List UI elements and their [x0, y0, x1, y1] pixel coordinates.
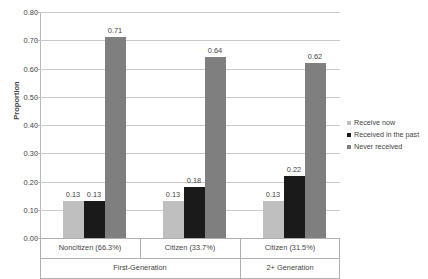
bar-value-label: 0.13 — [66, 190, 80, 199]
y-axis-tick — [36, 69, 40, 70]
category-divider — [240, 238, 241, 258]
category-table-side-border — [339, 238, 340, 279]
y-axis-tick-label: 0.40 — [6, 121, 38, 130]
bar-value-label: 0.22 — [287, 165, 301, 174]
bar-value-label: 0.13 — [266, 190, 280, 199]
legend-label: Receive now — [354, 117, 395, 128]
y-axis-tick-label: 0.30 — [6, 149, 38, 158]
y-axis-tick — [36, 210, 40, 211]
category-row: Noncitizen (66.3%)Citizen (33.7%)Citizen… — [40, 238, 340, 258]
legend-item[interactable]: Receive now — [347, 117, 428, 128]
bar-chart: Proportion 0.000.100.200.300.400.500.600… — [0, 0, 428, 279]
category-label-table: Noncitizen (66.3%)Citizen (33.7%)Citizen… — [40, 238, 340, 279]
plot-area: 0.130.130.710.130.180.640.130.220.62 — [40, 12, 340, 238]
legend-swatch-icon — [347, 145, 351, 149]
y-axis-tick — [36, 97, 40, 98]
bar-value-label: 0.64 — [208, 46, 222, 55]
bar — [205, 57, 226, 238]
bar — [84, 201, 105, 238]
legend-item[interactable]: Received in the past — [347, 129, 428, 140]
bar — [184, 187, 205, 238]
y-axis-tick-label: 0.10 — [6, 205, 38, 214]
category-table-side-border — [40, 238, 41, 279]
y-axis-tick — [36, 182, 40, 183]
group-header-label: First-Generation — [40, 258, 240, 278]
y-axis-tick-label: 0.60 — [6, 64, 38, 73]
bar-value-label: 0.62 — [308, 52, 322, 61]
category-label: Citizen (33.7%) — [140, 238, 240, 258]
y-axis-tick — [36, 153, 40, 154]
category-label: Citizen (31.5%) — [240, 238, 340, 258]
legend-label: Received in the past — [354, 129, 419, 140]
y-axis-tick-label: 0.00 — [6, 234, 38, 243]
legend-swatch-icon — [347, 121, 351, 125]
group-header-label: 2+ Generation — [240, 258, 340, 278]
y-axis-tick-label: 0.70 — [6, 36, 38, 45]
y-axis-tick-label: 0.20 — [6, 177, 38, 186]
bar — [305, 63, 326, 238]
group-divider — [240, 258, 241, 278]
bar — [284, 176, 305, 238]
category-divider — [140, 238, 141, 258]
bar-value-label: 0.71 — [108, 26, 122, 35]
y-axis-tick-labels: 0.000.100.200.300.400.500.600.700.80 — [6, 0, 38, 279]
y-axis-tick — [36, 125, 40, 126]
legend-item[interactable]: Never received — [347, 141, 428, 152]
bar-value-label: 0.13 — [166, 190, 180, 199]
y-axis-tick — [36, 12, 40, 13]
bar — [63, 201, 84, 238]
y-axis-tick-label: 0.80 — [6, 8, 38, 17]
group-header-row: First-Generation2+ Generation — [40, 258, 340, 278]
bar-group: 0.130.130.71 — [63, 12, 126, 238]
chart-legend: Receive nowReceived in the pastNever rec… — [347, 117, 428, 153]
bar-value-label: 0.13 — [87, 190, 101, 199]
bar-group: 0.130.180.64 — [163, 12, 226, 238]
bar — [263, 201, 284, 238]
y-axis-tick — [36, 40, 40, 41]
bar-value-label: 0.18 — [187, 176, 201, 185]
legend-swatch-icon — [347, 133, 351, 137]
bar-group: 0.130.220.62 — [263, 12, 326, 238]
category-label: Noncitizen (66.3%) — [40, 238, 140, 258]
y-axis-tick-label: 0.50 — [6, 92, 38, 101]
bar — [105, 37, 126, 238]
bar — [163, 201, 184, 238]
legend-label: Never received — [354, 141, 402, 152]
